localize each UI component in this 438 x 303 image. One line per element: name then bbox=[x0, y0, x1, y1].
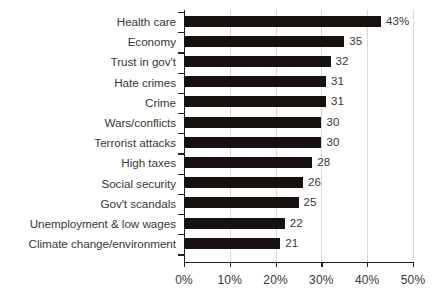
bar bbox=[184, 117, 321, 128]
bar-row: 28 bbox=[184, 153, 413, 173]
bar bbox=[184, 238, 280, 249]
bar-value-label: 26 bbox=[308, 174, 321, 191]
x-axis-tick-label: 0% bbox=[175, 272, 193, 288]
bar-value-label: 32 bbox=[336, 53, 349, 70]
category-label: Social security bbox=[0, 174, 176, 194]
bar-value-label: 25 bbox=[304, 194, 317, 211]
bar bbox=[184, 76, 326, 87]
x-axis-tick bbox=[413, 262, 414, 267]
x-axis-tick-label: 50% bbox=[401, 272, 426, 288]
bar bbox=[184, 36, 344, 47]
bar-row: 30 bbox=[184, 133, 413, 153]
category-label: Gov't scandals bbox=[0, 194, 176, 214]
category-label: Economy bbox=[0, 32, 176, 52]
bar-row: 21 bbox=[184, 234, 413, 254]
x-axis-tick bbox=[184, 262, 185, 267]
bar-value-label: 28 bbox=[317, 154, 330, 171]
bar bbox=[184, 197, 299, 208]
category-label: Climate change/environment bbox=[0, 234, 176, 254]
category-label: Unemployment & low wages bbox=[0, 214, 176, 234]
bar-value-label: 21 bbox=[285, 235, 298, 252]
bar-chart: Health careEconomyTrust in gov'tHate cri… bbox=[0, 0, 438, 303]
x-axis-tick bbox=[367, 262, 368, 267]
bar-row: 25 bbox=[184, 194, 413, 214]
bar-row: 22 bbox=[184, 214, 413, 234]
bar-value-label: 43% bbox=[386, 13, 409, 30]
bar-row: 30 bbox=[184, 113, 413, 133]
x-axis-tick-label: 20% bbox=[263, 272, 288, 288]
gridline-50pct bbox=[413, 10, 414, 262]
x-axis-tick-label: 40% bbox=[355, 272, 380, 288]
bar bbox=[184, 96, 326, 107]
category-label: Hate crimes bbox=[0, 73, 176, 93]
bar-value-label: 22 bbox=[290, 215, 303, 232]
bar bbox=[184, 218, 285, 229]
bar-row: 35 bbox=[184, 32, 413, 52]
bar bbox=[184, 56, 331, 67]
category-label: Crime bbox=[0, 93, 176, 113]
bar bbox=[184, 16, 381, 27]
category-axis-labels: Health careEconomyTrust in gov'tHate cri… bbox=[0, 10, 176, 262]
bar-value-label: 30 bbox=[326, 114, 339, 131]
bar-row: 26 bbox=[184, 174, 413, 194]
bar-row: 43% bbox=[184, 12, 413, 32]
category-label: Health care bbox=[0, 12, 176, 32]
category-label: Wars/conflicts bbox=[0, 113, 176, 133]
bar-value-label: 31 bbox=[331, 93, 344, 110]
category-label: Trust in gov't bbox=[0, 52, 176, 72]
x-axis-tick bbox=[230, 262, 231, 267]
bar-value-label: 35 bbox=[349, 33, 362, 50]
x-axis-tick-label: 30% bbox=[309, 272, 334, 288]
bar-row: 31 bbox=[184, 93, 413, 113]
bar-row: 31 bbox=[184, 73, 413, 93]
x-axis-tick bbox=[321, 262, 322, 267]
bar bbox=[184, 177, 303, 188]
bar bbox=[184, 137, 321, 148]
x-axis-tick-label: 10% bbox=[217, 272, 242, 288]
plot-area: 43%3532313130302826252221 bbox=[184, 10, 413, 262]
bar-row: 32 bbox=[184, 52, 413, 72]
x-axis-line bbox=[184, 262, 413, 263]
bar-value-label: 31 bbox=[331, 73, 344, 90]
bar-series: 43%3532313130302826252221 bbox=[184, 10, 413, 262]
bar-value-label: 30 bbox=[326, 134, 339, 151]
category-label: Terrorist attacks bbox=[0, 133, 176, 153]
bar bbox=[184, 157, 312, 168]
category-label: High taxes bbox=[0, 153, 176, 173]
x-axis-tick bbox=[276, 262, 277, 267]
